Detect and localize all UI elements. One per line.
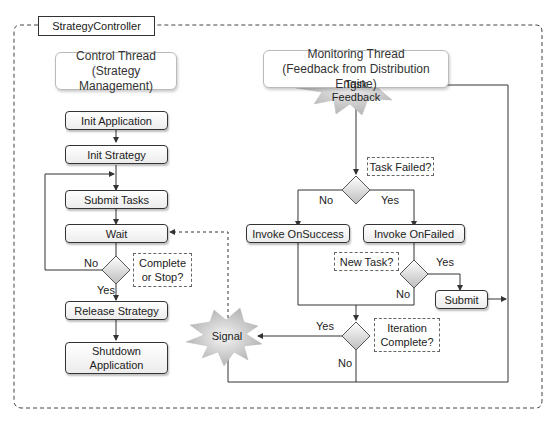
task-failed-note: Task Failed? bbox=[367, 157, 434, 176]
control-thread-title: Control Thread bbox=[56, 49, 176, 64]
new-task-no-label: No bbox=[396, 288, 410, 300]
iteration-complete-decision bbox=[342, 322, 370, 350]
complete-or-stop-decision bbox=[102, 256, 130, 284]
task-feedback-label: Task Feedback bbox=[328, 78, 384, 104]
shutdown-application-step: Shutdown Application bbox=[65, 342, 168, 374]
init-strategy-step: Init Strategy bbox=[65, 145, 168, 164]
monitoring-thread-title: Monitoring Thread bbox=[264, 47, 448, 62]
new-task-note: New Task? bbox=[334, 252, 399, 271]
iteration-line2: Complete? bbox=[380, 335, 433, 349]
wait-step: Wait bbox=[65, 224, 168, 243]
iteration-line1: Iteration bbox=[387, 321, 427, 335]
control-thread-subtitle: (Strategy Management) bbox=[56, 64, 176, 94]
task-feedback-line2: Feedback bbox=[328, 91, 384, 104]
task-failed-no-label: No bbox=[319, 194, 333, 206]
task-failed-decision bbox=[342, 176, 370, 204]
submit-step: Submit bbox=[435, 290, 488, 309]
control-thread-header: Control Thread (Strategy Management) bbox=[55, 52, 177, 90]
task-failed-yes-label: Yes bbox=[381, 194, 399, 206]
new-task-decision bbox=[400, 260, 428, 288]
task-feedback-line1: Task bbox=[328, 78, 384, 91]
invoke-onsuccess-step: Invoke OnSuccess bbox=[246, 224, 350, 243]
complete-no-label: No bbox=[84, 257, 98, 269]
complete-yes-label: Yes bbox=[97, 284, 115, 296]
complete-or-stop-note: Complete or Stop? bbox=[133, 253, 192, 287]
release-strategy-step: Release Strategy bbox=[65, 301, 168, 320]
iteration-yes-label: Yes bbox=[316, 320, 334, 332]
iteration-no-label: No bbox=[338, 357, 352, 369]
complete-or-stop-line2: or Stop? bbox=[142, 270, 184, 284]
invoke-onfailed-step: Invoke OnFailed bbox=[363, 224, 465, 243]
container-title: StrategyController bbox=[38, 16, 155, 36]
complete-or-stop-line1: Complete bbox=[139, 256, 186, 270]
shutdown-line1: Shutdown bbox=[92, 344, 141, 358]
new-task-yes-label: Yes bbox=[436, 256, 454, 268]
signal-label: Signal bbox=[202, 330, 252, 343]
iteration-complete-note: Iteration Complete? bbox=[374, 318, 440, 352]
submit-tasks-step: Submit Tasks bbox=[65, 190, 168, 209]
shutdown-line2: Application bbox=[90, 358, 144, 372]
init-application-step: Init Application bbox=[65, 111, 168, 130]
